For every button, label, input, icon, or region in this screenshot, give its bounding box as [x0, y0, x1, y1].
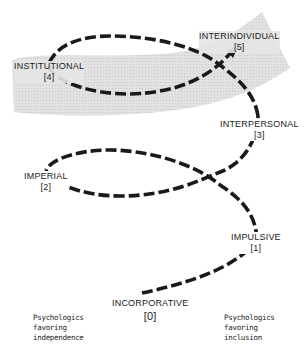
- caption-line: favoring: [224, 323, 275, 333]
- caption-line: favoring: [33, 323, 84, 333]
- stage-impulsive: IMPULSIVE [1]: [231, 232, 281, 254]
- stage-name: IMPERIAL: [24, 171, 68, 182]
- stage-number: [4]: [14, 72, 84, 83]
- stage-imperial: IMPERIAL [2]: [24, 171, 68, 193]
- caption-independence: Psychologics favoring independence: [33, 313, 84, 343]
- stage-number: [3]: [220, 130, 299, 141]
- caption-line: independence: [33, 333, 84, 343]
- stage-name: INSTITUTIONAL: [14, 61, 84, 72]
- stage-number: [1]: [231, 243, 281, 254]
- stage-name: INTERPERSONAL: [220, 119, 299, 130]
- stage-interindividual: INTERINDIVIDUAL [5]: [199, 31, 280, 53]
- stage-number: [0]: [112, 311, 188, 322]
- caption-line: inclusion: [224, 333, 275, 343]
- caption-line: Psychologics: [224, 313, 275, 323]
- caption-line: Psychologics: [33, 313, 84, 323]
- stage-name: IMPULSIVE: [231, 232, 281, 243]
- caption-inclusion: Psychologics favoring inclusion: [224, 313, 275, 343]
- stage-name: INCORPORATIVE: [112, 298, 188, 309]
- stage-number: [5]: [199, 42, 280, 53]
- stage-interpersonal: INTERPERSONAL [3]: [220, 119, 299, 141]
- stage-number: [2]: [24, 182, 68, 193]
- stage-incorporative: INCORPORATIVE [0]: [112, 298, 188, 322]
- stage-name: INTERINDIVIDUAL: [199, 31, 280, 42]
- stage-institutional: INSTITUTIONAL [4]: [14, 61, 84, 83]
